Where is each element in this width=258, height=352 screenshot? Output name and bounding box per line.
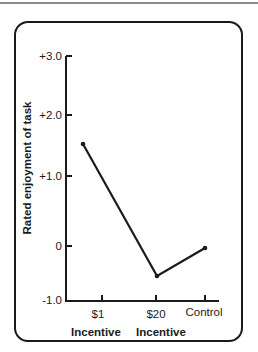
data-point-2 (155, 274, 160, 279)
xcat-label-2: $20 (146, 308, 165, 320)
y-axis-label: Rated enjoyment of task (21, 101, 33, 235)
line-chart: +3.0 +2.0 +1.0 0 -1.0 Rated enjoyment of… (0, 0, 258, 352)
xcat-label-3: Control (185, 306, 222, 318)
data-point-3 (203, 246, 208, 251)
data-line (83, 144, 205, 276)
xcat-label-1: $1 (92, 308, 105, 320)
data-point-1 (81, 142, 86, 147)
ytick-label-m1: -1.0 (42, 294, 62, 306)
ytick-label-2: +2.0 (39, 109, 62, 121)
xsub-label-1: Incentive (71, 326, 121, 338)
ytick-label-0: 0 (56, 240, 62, 252)
ytick-label-1: +1.0 (39, 170, 62, 182)
ytick-label-3: +3.0 (39, 50, 62, 62)
xsub-label-2: Incentive (136, 326, 186, 338)
